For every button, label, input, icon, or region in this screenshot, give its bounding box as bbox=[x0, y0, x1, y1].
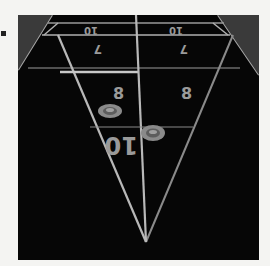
label-10-left: 10 bbox=[84, 25, 98, 36]
label-10-right: 10 bbox=[169, 25, 183, 36]
label-8-right: 8 bbox=[181, 84, 192, 103]
label-7-right: 7 bbox=[180, 42, 188, 56]
shuffleboard-surface: 10 10 7 7 8 8 10 bbox=[18, 15, 259, 260]
puck-1[interactable] bbox=[98, 104, 122, 118]
edge-marker bbox=[1, 31, 6, 36]
label-8-left: 8 bbox=[113, 84, 124, 103]
board-lines: 10 10 7 7 8 8 10 bbox=[18, 15, 259, 260]
puck-2[interactable] bbox=[141, 125, 165, 141]
label-10-tip: 10 bbox=[105, 131, 138, 159]
label-7-left: 7 bbox=[94, 42, 102, 56]
